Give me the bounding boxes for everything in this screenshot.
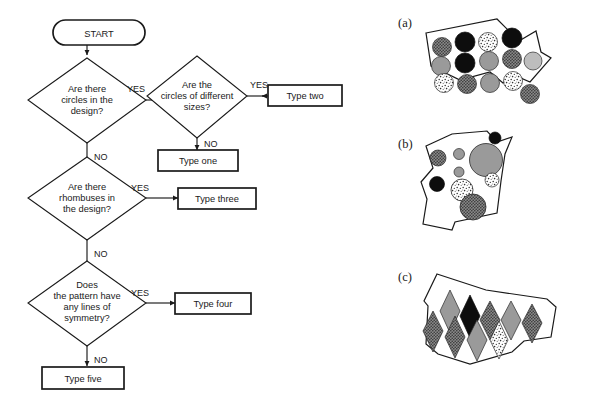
- circle-b-5: [454, 167, 464, 177]
- d4-line-4: symmetry?: [64, 313, 109, 323]
- type-two-label: Type two: [286, 91, 323, 101]
- type-five-label: Type five: [64, 374, 101, 384]
- d3-line-3: the design?: [63, 204, 111, 214]
- d2-line-2: circles of different: [161, 91, 234, 101]
- d3-line-2: rhombuses in: [59, 193, 115, 203]
- circle-b-6: [430, 177, 445, 192]
- d1-line-2: circles in the: [61, 95, 113, 105]
- circle-a-12: [481, 74, 500, 93]
- figure-root: START Are there circles in the design? Y…: [0, 0, 591, 404]
- d1-line-3: design?: [71, 106, 104, 116]
- d2-line-1: Are the: [182, 80, 212, 90]
- outcome-type-four: Type four: [175, 293, 251, 314]
- circle-b-3: [454, 149, 465, 160]
- illustration-a: [426, 19, 551, 104]
- d1-yes-label: YES: [127, 84, 145, 94]
- circle-b-8: [485, 173, 499, 187]
- type-three-label: Type three: [195, 194, 239, 204]
- circle-b-2: [430, 150, 446, 166]
- outcome-type-two: Type two: [268, 85, 342, 106]
- decision-circles-present: Are there circles in the design?: [28, 58, 146, 143]
- d4-line-3: any lines of: [63, 302, 110, 312]
- panel-b-label: (b): [398, 137, 413, 151]
- d2-line-3: sizes?: [184, 102, 210, 112]
- circle-a-14: [521, 85, 540, 104]
- outcome-type-one: Type one: [158, 150, 238, 171]
- figure-canvas: START Are there circles in the design? Y…: [0, 0, 591, 404]
- circle-a-7: [480, 52, 499, 71]
- circle-b-4: [470, 144, 503, 177]
- circle-a-3: [479, 33, 498, 52]
- d3-line-1: Are there: [68, 182, 106, 192]
- d1-line-1: Are there: [68, 84, 106, 94]
- outcome-type-five: Type five: [42, 367, 124, 389]
- decision-rhombuses-present: Are there rhombuses in the design?: [28, 157, 146, 240]
- d2-yes-label: YES: [250, 80, 268, 90]
- circle-a-4: [502, 28, 522, 48]
- circle-a-6: [455, 53, 475, 73]
- circle-a-8: [503, 50, 522, 69]
- decision-lines-of-symmetry: Does the pattern have any lines of symme…: [28, 261, 146, 346]
- circle-a-13: [504, 72, 523, 91]
- circle-a-10: [435, 74, 454, 93]
- d4-line-2: the pattern have: [53, 291, 120, 301]
- circle-a-11: [458, 75, 477, 94]
- d1-no-label: NO: [94, 152, 108, 162]
- illustration-b: [421, 131, 512, 230]
- circle-a-1: [433, 38, 452, 57]
- panel-a-label: (a): [398, 16, 412, 30]
- d4-yes-label: YES: [131, 288, 149, 298]
- circle-a-9: [524, 52, 542, 70]
- circle-b-9: [460, 194, 486, 220]
- circle-a-2: [455, 32, 475, 52]
- panel-c-label: (c): [398, 270, 412, 284]
- illustration-c: [423, 274, 556, 364]
- outcome-type-three: Type three: [178, 188, 256, 209]
- d4-line-1: Does: [76, 280, 98, 290]
- circle-b-1: [489, 132, 501, 144]
- d3-no-label: NO: [94, 249, 108, 259]
- decision-circles-different-sizes: Are the circles of different sizes?: [147, 56, 247, 138]
- type-four-label: Type four: [194, 299, 233, 309]
- d4-no-label: NO: [94, 355, 108, 365]
- d3-yes-label: YES: [131, 183, 149, 193]
- circle-a-5: [432, 57, 451, 76]
- start-label: START: [84, 29, 114, 39]
- d2-no-label: NO: [204, 139, 218, 149]
- start-node: START: [53, 20, 145, 45]
- type-one-label: Type one: [179, 156, 217, 166]
